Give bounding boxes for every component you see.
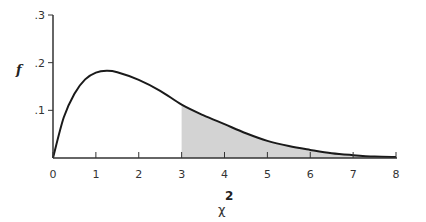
x-tick-label: 7	[350, 168, 357, 181]
x-axis-label: χ	[218, 202, 226, 217]
x-tick-label: 3	[178, 168, 185, 181]
x-tick-label: 1	[92, 168, 99, 181]
x-axis-label-superscript: 2	[225, 189, 233, 203]
x-tick-label: 6	[307, 168, 314, 181]
y-tick-label: .2	[35, 57, 46, 70]
shaded-area	[182, 105, 396, 158]
y-tick-label: .3	[35, 9, 46, 22]
y-tick-label: .1	[35, 104, 46, 117]
x-tick-label: 4	[221, 168, 228, 181]
chi-square-chart: 012345678 .1.2.3 f χ 2	[0, 0, 426, 222]
shaded-tail-region	[182, 105, 396, 158]
x-tick-label: 2	[135, 168, 142, 181]
x-tick-label: 8	[393, 168, 400, 181]
x-tick-label: 5	[264, 168, 271, 181]
y-axis-label: f	[15, 62, 24, 77]
x-tick-label: 0	[50, 168, 57, 181]
y-ticks: .1.2.3	[35, 9, 54, 117]
